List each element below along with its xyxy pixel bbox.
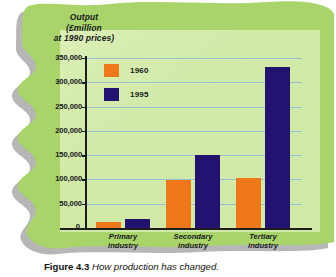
- y-axis-title: Output (£million at 1990 prices): [36, 12, 132, 44]
- category-label-line: Tertiary: [221, 232, 305, 241]
- legend-swatch-1960: [104, 64, 119, 77]
- legend-label-1995: 1995: [130, 90, 149, 99]
- bar-secondary-industry-1960: [166, 180, 191, 228]
- y-axis-tick-label: 300,000: [30, 77, 82, 86]
- figure-number: Figure 4.3: [44, 261, 89, 272]
- legend-label-1960: 1960: [130, 66, 149, 75]
- y-axis-title-line-3: at 1990 prices): [36, 33, 132, 44]
- bar-secondary-industry-1995: [195, 155, 220, 228]
- bar-tertiary-industry-1995: [265, 67, 290, 228]
- y-axis-tick-label: 350,000: [30, 53, 82, 62]
- y-axis-tick-label: 250,000: [30, 102, 82, 111]
- y-axis-title-line-2: (£million: [36, 23, 132, 34]
- y-axis-title-line-1: Output: [36, 12, 132, 23]
- figure-container: Output (£million at 1990 prices) 350,000…: [0, 0, 336, 277]
- legend-swatch-1995: [104, 88, 119, 101]
- legend-item-1995[interactable]: 1995: [104, 86, 149, 103]
- bar-tertiary-industry-1960: [236, 178, 261, 228]
- y-axis-tick-label: 50,000: [30, 199, 82, 208]
- figure-caption-text: How production has changed.: [92, 261, 219, 272]
- figure-caption: Figure 4.3 How production has changed.: [44, 261, 324, 272]
- y-axis-tick-label: 150,000: [30, 150, 82, 159]
- bar-primary-industry-1960: [96, 222, 121, 228]
- y-axis-tick-label: 100,000: [30, 174, 82, 183]
- category-label-line: industry: [221, 241, 305, 250]
- gridline: [86, 58, 302, 59]
- x-axis-line: [60, 228, 312, 230]
- chart-plot-area: Output (£million at 1990 prices) 350,000…: [0, 0, 336, 277]
- y-axis-tick-label: 200,000: [30, 126, 82, 135]
- y-axis-tick-zero: 0: [62, 222, 80, 231]
- y-axis-line: [85, 56, 87, 230]
- bar-primary-industry-1995: [125, 219, 150, 228]
- legend-item-1960[interactable]: 1960: [104, 62, 149, 79]
- category-label-tertiary-industry: Tertiaryindustry: [221, 232, 305, 251]
- chart-legend: 19601995: [104, 62, 149, 110]
